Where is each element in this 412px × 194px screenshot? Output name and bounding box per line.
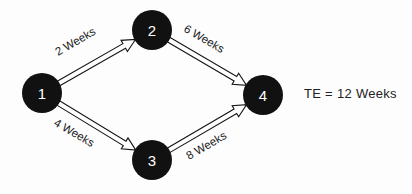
node-4[interactable]: 4 [243,75,283,115]
node-4-label: 4 [259,87,267,104]
node-3[interactable]: 3 [132,140,172,180]
pert-diagram-canvas: 1 2 3 4 2 Weeks 6 Weeks 4 Weeks 8 Weeks … [0,0,412,194]
node-1[interactable]: 1 [22,73,62,113]
node-3-label: 3 [148,152,156,169]
node-group: 1 2 3 4 [22,10,283,180]
edge-1-to-2-label: 2 Weeks [53,25,98,58]
te-annotation-text: TE = 12 Weeks [304,86,397,101]
node-2[interactable]: 2 [132,10,172,50]
node-2-label: 2 [148,22,156,39]
node-1-label: 1 [38,85,46,102]
